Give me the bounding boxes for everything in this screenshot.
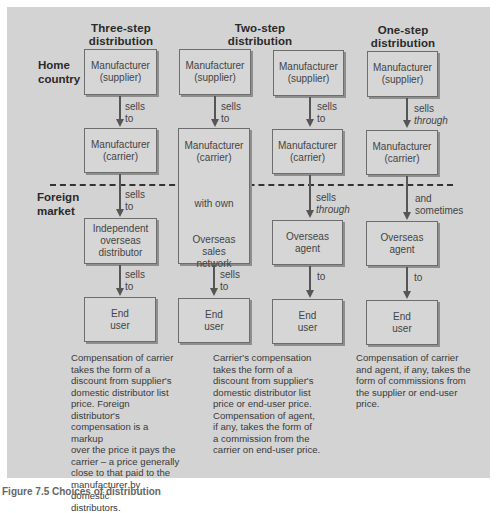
figure-caption: Figure 7.5 Choices of distribution: [2, 486, 161, 497]
arrow-head-icon: [306, 290, 314, 298]
caption-line: Compensation of carrier: [356, 352, 486, 364]
edge-text: sells: [220, 269, 240, 281]
box-text: (supplier): [288, 73, 330, 85]
arrow-head-icon: [116, 209, 124, 217]
label-line: market: [37, 204, 79, 218]
title-line: Two-step: [210, 22, 310, 35]
arrow-head-icon: [403, 120, 411, 128]
edge-text: through: [414, 115, 448, 126]
edge-text: sells: [221, 101, 241, 113]
edge-text: to: [220, 281, 240, 293]
caption-line: discount from supplier's: [213, 375, 333, 387]
edge-label: and sometimes: [415, 193, 463, 217]
box-text: user: [204, 321, 223, 333]
arrow-head-icon: [403, 291, 411, 299]
box-text: Manufacturer: [186, 60, 245, 72]
edge-label: sells to: [125, 189, 145, 213]
caption-line: over the price it pays the: [71, 444, 181, 456]
title-line: distribution: [210, 35, 310, 48]
arrow: [119, 96, 121, 120]
caption-line: carrier on end-user price.: [213, 444, 333, 456]
caption-line: close to that paid to the: [71, 467, 181, 479]
row-label-home-country: Home country: [38, 58, 80, 86]
arrow-head-icon: [211, 119, 219, 127]
box-text: Manufacturer: [278, 140, 337, 152]
box-manufacturer-carrier-with-network: Manufacturer (carrier) with own Overseas…: [178, 128, 250, 264]
title-line: distribution: [84, 35, 158, 48]
arrow: [213, 265, 215, 289]
box-independent-overseas-distributor: Independent overseas distributor: [84, 218, 157, 264]
arrow-head-icon: [403, 212, 411, 220]
box-text: Overseas: [286, 231, 329, 243]
box-text: End: [111, 308, 129, 320]
caption-line: domestic distributor list: [213, 387, 333, 399]
box-text: (supplier): [100, 72, 142, 84]
caption-line: price or end-user price.: [213, 398, 333, 410]
caption-line: carrier – a price generally: [71, 456, 181, 468]
box-text: (supplier): [194, 72, 236, 84]
edge-label: sells to: [125, 269, 145, 293]
caption-line: the supplier or end-user: [356, 387, 486, 399]
box-end-user: End user: [84, 297, 156, 342]
box-text: user: [110, 320, 129, 332]
row-label-foreign-market: Foreign market: [37, 190, 79, 218]
edge-label: sells to: [125, 101, 145, 125]
edge-label: sells through: [316, 192, 350, 216]
arrow: [214, 96, 216, 120]
caption-line: discount from supplier's: [71, 375, 181, 387]
box-text: Manufacturer: [91, 139, 150, 151]
box-overseas-agent: Overseas agent: [366, 221, 438, 266]
edge-label: sells to: [220, 269, 240, 293]
arrow: [406, 176, 408, 213]
caption-line: form of commissions from: [356, 375, 486, 387]
box-text: Manufacturer: [373, 141, 432, 153]
caption-line: Compensation of carrier: [71, 352, 181, 364]
box-text: overseas: [100, 235, 141, 247]
box-manufacturer-supplier: Manufacturer (supplier): [273, 50, 344, 96]
caption-line: takes the form of a: [71, 364, 181, 376]
border-divider: [50, 184, 453, 186]
box-text: Manufacturer: [373, 62, 432, 74]
box-text: Manufacturer: [91, 60, 150, 72]
edge-text: sells: [125, 101, 145, 113]
edge-text: sometimes: [415, 205, 463, 217]
box-text: Overseas: [193, 234, 236, 246]
edge-text: to: [125, 281, 145, 293]
title-line: Three-step: [84, 22, 158, 35]
edge-label: to: [414, 272, 422, 284]
arrow: [309, 266, 311, 291]
edge-label: sells to: [221, 101, 241, 125]
arrow: [119, 265, 121, 289]
box-text: user: [298, 322, 317, 334]
arrow: [406, 98, 408, 121]
caption-two-step: Carrier's compensation takes the form of…: [213, 352, 333, 456]
edge-text: to: [125, 113, 145, 125]
box-overseas-agent: Overseas agent: [272, 220, 343, 265]
label-line: country: [38, 72, 80, 86]
box-text: distributor: [99, 247, 143, 259]
box-text: Independent: [93, 223, 149, 235]
arrow-head-icon: [306, 119, 314, 127]
arrow-head-icon: [210, 288, 218, 296]
arrow: [309, 175, 311, 211]
arrow: [406, 267, 408, 292]
caption-line: domestic distributor list: [71, 387, 181, 399]
edge-text: to: [317, 271, 325, 283]
caption-line: Compensation of agent,: [213, 410, 333, 422]
box-end-user: End user: [272, 299, 343, 344]
arrow: [119, 174, 121, 210]
arrow-head-icon: [306, 210, 314, 218]
edge-label: sells through: [414, 103, 448, 127]
caption-line: takes the form of a: [213, 364, 333, 376]
caption-line: if any, takes the form of: [213, 421, 333, 433]
box-manufacturer-supplier: Manufacturer (supplier): [367, 51, 438, 97]
arrow-head-icon: [116, 288, 124, 296]
edge-label: sells to: [317, 101, 337, 125]
edge-text: to: [221, 113, 241, 125]
arrow: [309, 97, 311, 120]
box-text: sales: [202, 246, 225, 258]
box-text: Manufacturer: [185, 140, 244, 152]
box-text: agent: [295, 243, 320, 255]
box-text: (carrier): [103, 151, 138, 163]
arrow-head-icon: [116, 119, 124, 127]
